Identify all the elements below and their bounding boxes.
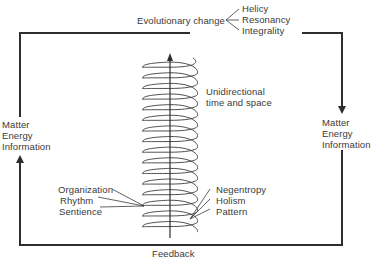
- right-attributes: Negentropy Holism Pattern: [216, 184, 266, 217]
- right-energy-label: Energy: [322, 128, 371, 139]
- arrow-down-icon: [338, 106, 346, 114]
- loop-top-right-line: [302, 33, 342, 107]
- negentropy-label: Negentropy: [216, 184, 266, 195]
- time-axis-arrow-icon: [167, 53, 173, 61]
- unidirectional-label: Unidirectional: [206, 86, 272, 97]
- sentience-label: Sentience: [58, 206, 113, 217]
- left-input-labels: Matter Energy Information: [2, 119, 51, 152]
- helicy-label: Helicy: [242, 3, 290, 14]
- diagram-canvas: [0, 0, 375, 264]
- evolutionary-change-label: Evolutionary change: [137, 15, 225, 26]
- time-and-space-label: time and space: [206, 97, 272, 108]
- evolutionary-branches: Helicy Resonancy Integrality: [242, 3, 290, 36]
- rhythm-label: Rhythm: [58, 195, 113, 206]
- feedback-label: Feedback: [152, 248, 195, 259]
- right-information-label: Information: [322, 139, 371, 150]
- right-output-labels: Matter Energy Information: [322, 117, 371, 150]
- left-information-label: Information: [2, 141, 51, 152]
- helix-description: Unidirectional time and space: [206, 86, 272, 108]
- right-matter-label: Matter: [322, 117, 371, 128]
- arrow-up-icon: [16, 155, 24, 163]
- holism-label: Holism: [216, 195, 266, 206]
- resonancy-label: Resonancy: [242, 14, 290, 25]
- left-matter-label: Matter: [2, 119, 51, 130]
- integrality-label: Integrality: [242, 25, 290, 36]
- left-attributes: Organization Rhythm Sentience: [58, 184, 113, 217]
- left-energy-label: Energy: [2, 130, 51, 141]
- branch-lines: [226, 9, 239, 30]
- pattern-label: Pattern: [216, 206, 266, 217]
- attribute-leaders: [98, 189, 210, 219]
- organization-label: Organization: [58, 184, 113, 195]
